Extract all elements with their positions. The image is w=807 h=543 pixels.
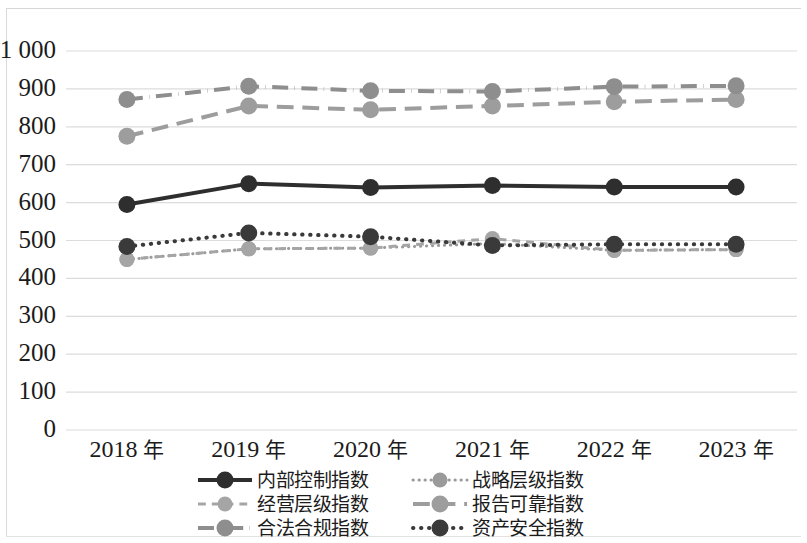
legend-label: 经营层级指数 xyxy=(257,493,368,515)
chart-legend: 内部控制指数战略层级指数经营层级指数报告可靠指数合法合规指数资产安全指数 xyxy=(196,468,626,540)
legend-label: 战略层级指数 xyxy=(472,469,583,491)
y-axis-tick-label: 900 xyxy=(19,75,57,100)
data-point-marker xyxy=(240,97,257,114)
data-point-marker xyxy=(362,101,379,118)
legend-key-swatch xyxy=(196,517,254,539)
y-axis-tick-label: 100 xyxy=(19,378,57,403)
series-line xyxy=(127,100,736,137)
x-axis-tick-label: 2018 年 xyxy=(57,436,197,463)
data-point-marker xyxy=(606,236,623,253)
legend-key-swatch xyxy=(411,493,469,515)
y-axis-tick-label: 400 xyxy=(19,264,57,289)
data-point-marker xyxy=(606,93,623,110)
data-point-marker xyxy=(728,179,745,196)
legend-item[interactable]: 资产安全指数 xyxy=(411,516,626,540)
legend-item[interactable]: 经营层级指数 xyxy=(196,492,411,516)
data-point-marker xyxy=(606,179,623,196)
data-point-marker xyxy=(118,128,135,145)
legend-key-swatch xyxy=(411,517,469,539)
x-axis-tick-label: 2019 年 xyxy=(179,436,319,463)
legend-item[interactable]: 报告可靠指数 xyxy=(411,492,626,516)
y-axis-tick-label: 1 000 xyxy=(0,37,56,62)
y-axis-tick-label: 500 xyxy=(19,227,57,252)
legend-item[interactable]: 内部控制指数 xyxy=(196,468,411,492)
data-point-marker xyxy=(240,78,257,95)
data-point-marker xyxy=(606,78,623,95)
legend-item[interactable]: 合法合规指数 xyxy=(196,516,411,540)
y-axis-tick-label: 700 xyxy=(19,151,57,176)
y-axis-tick-label: 600 xyxy=(19,189,57,214)
chart-container: 1 0009008007006005004003002001000 2018 年… xyxy=(0,0,807,543)
data-point-marker xyxy=(240,224,257,241)
data-point-marker xyxy=(240,175,257,192)
legend-key-swatch xyxy=(411,469,469,491)
data-point-marker xyxy=(484,83,501,100)
data-point-marker xyxy=(728,77,745,94)
data-point-marker xyxy=(362,228,379,245)
x-axis-tick-label: 2021 年 xyxy=(422,436,562,463)
data-point-marker xyxy=(484,237,501,254)
data-point-marker xyxy=(484,177,501,194)
data-point-marker xyxy=(362,82,379,99)
x-axis-tick-label: 2020 年 xyxy=(301,436,441,463)
series-line xyxy=(127,184,736,205)
x-axis-tick-label: 2023 年 xyxy=(666,436,806,463)
legend-label: 内部控制指数 xyxy=(257,469,368,491)
y-axis-tick-label: 0 xyxy=(44,416,57,441)
data-point-marker xyxy=(118,196,135,213)
data-point-marker xyxy=(728,236,745,253)
legend-label: 合法合规指数 xyxy=(257,517,368,539)
data-point-marker xyxy=(241,241,256,256)
y-axis-tick-label: 300 xyxy=(19,302,57,327)
y-axis-tick-label: 800 xyxy=(19,113,57,138)
data-point-marker xyxy=(118,238,135,255)
legend-label: 报告可靠指数 xyxy=(472,493,583,515)
y-axis-tick-label: 200 xyxy=(19,340,57,365)
legend-key-swatch xyxy=(196,469,254,491)
data-point-marker xyxy=(118,91,135,108)
legend-key-swatch xyxy=(196,493,254,515)
x-axis-tick-label: 2022 年 xyxy=(544,436,684,463)
legend-label: 资产安全指数 xyxy=(472,517,583,539)
data-point-marker xyxy=(362,179,379,196)
series-line xyxy=(127,86,736,100)
legend-item[interactable]: 战略层级指数 xyxy=(411,468,626,492)
